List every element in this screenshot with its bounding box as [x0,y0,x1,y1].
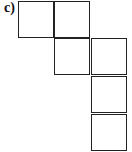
figure-label: c) [4,0,15,16]
grid-square [54,1,90,38]
grid-square [91,114,127,151]
grid-square [54,38,90,75]
grid-square [18,1,54,38]
grid-square [91,38,127,75]
grid-square [91,76,127,113]
